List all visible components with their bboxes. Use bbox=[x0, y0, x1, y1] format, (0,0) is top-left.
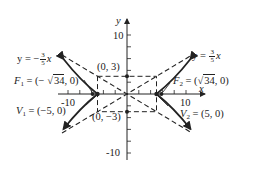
y-axis-label: y bbox=[116, 16, 121, 27]
asymptote-negative-label: y = −35x bbox=[17, 52, 52, 67]
y-tick-label-neg10: -10 bbox=[106, 148, 120, 159]
asymptote-positive-label: y = 35x bbox=[192, 49, 221, 64]
hyperbola-diagram: y x -10 10 10 -10 y = −35x y = 35x (0, 3… bbox=[0, 0, 254, 173]
vertex-v2-label: V2 = (5, 0) bbox=[180, 109, 224, 121]
focus-f1-point bbox=[91, 92, 95, 96]
focus-f1-label: F1 = (− √34, 0) bbox=[14, 76, 78, 88]
co-vertex-bottom-point bbox=[125, 110, 129, 114]
focus-f2-label: F2 = (√34, 0) bbox=[173, 76, 229, 88]
focus-f2-point bbox=[159, 92, 163, 96]
y-axis bbox=[127, 19, 131, 160]
vertex-v1-point bbox=[95, 92, 99, 96]
co-vertex-top-point bbox=[125, 74, 129, 78]
vertex-v2-point bbox=[154, 92, 158, 96]
co-vertex-top-label: (0, 3) bbox=[97, 62, 120, 73]
x-axis bbox=[58, 90, 205, 94]
vertex-v1-label: V1 = (−5, 0) bbox=[16, 106, 66, 118]
x-tick-label-10: 10 bbox=[180, 98, 191, 109]
co-vertex-bottom-label: (0, −3) bbox=[92, 112, 121, 123]
y-tick-label-10: 10 bbox=[113, 31, 124, 42]
